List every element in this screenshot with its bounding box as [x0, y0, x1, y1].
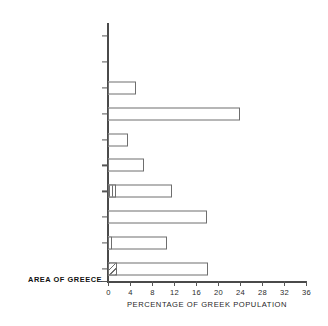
- x-axis-tick: [130, 281, 131, 286]
- x-axis-tick: [306, 281, 307, 286]
- bar-sub-segment: [108, 263, 117, 276]
- x-axis-tick-label: 8: [150, 288, 155, 297]
- x-axis-tick: [152, 281, 153, 286]
- bar-sub-segment: [108, 237, 112, 250]
- x-axis-tick-label: 24: [236, 288, 245, 297]
- bar-row: CRETE: [108, 49, 306, 75]
- x-axis-tick: [240, 281, 241, 286]
- bar: [108, 211, 207, 224]
- plot-area: CYCLADESCRETECENTRAL GREECEATTICAWESTERN…: [108, 23, 306, 282]
- bar: [108, 159, 144, 172]
- bar-chart: CYCLADESCRETECENTRAL GREECEATTICAWESTERN…: [0, 0, 328, 326]
- x-axis-tick: [174, 281, 175, 286]
- bar: [108, 107, 240, 120]
- bar-sub-segment: [108, 185, 116, 198]
- x-axis-tick: [108, 281, 109, 286]
- x-axis-tick: [262, 281, 263, 286]
- bar-row: WESTERN GREECE: [108, 127, 306, 153]
- x-axis-tick-label: 32: [280, 288, 289, 297]
- x-axis-tick-label: 28: [258, 288, 267, 297]
- bar-row: CENTRAL GREECE: [108, 75, 306, 101]
- bar: [108, 263, 208, 276]
- x-axis-tick-label: 4: [128, 288, 133, 297]
- bar-row: NOTHERN GREECE: [108, 204, 306, 230]
- bar-row: CYCLADES: [108, 23, 306, 49]
- x-axis-title: PERCENTAGE OF GREEK POPULATION: [108, 300, 306, 309]
- x-axis-tick: [218, 281, 219, 286]
- bar-row: ATTICA: [108, 101, 306, 127]
- x-axis-tick-label: 20: [214, 288, 223, 297]
- x-axis-tick-label: 36: [302, 288, 311, 297]
- category-tick: [102, 61, 108, 62]
- bar-row: DODECANESE: [108, 178, 306, 204]
- bar: [108, 237, 167, 250]
- x-axis-tick-label: 12: [170, 288, 179, 297]
- bar-row: OUTSIDE GREECE: [108, 230, 306, 256]
- y-axis-title: AREA OF GREECE: [28, 275, 102, 284]
- bar: [108, 133, 128, 146]
- bar: [108, 185, 172, 198]
- x-axis-tick-label: 16: [192, 288, 201, 297]
- x-axis-tick: [196, 281, 197, 286]
- bar: [108, 81, 136, 94]
- bar-row: NORTHEAST AEGEAN: [108, 153, 306, 179]
- category-tick: [102, 35, 108, 36]
- x-axis-tick: [284, 281, 285, 286]
- bar-row: PELOPONNESUS: [108, 256, 306, 282]
- x-axis-tick-label: 0: [106, 288, 111, 297]
